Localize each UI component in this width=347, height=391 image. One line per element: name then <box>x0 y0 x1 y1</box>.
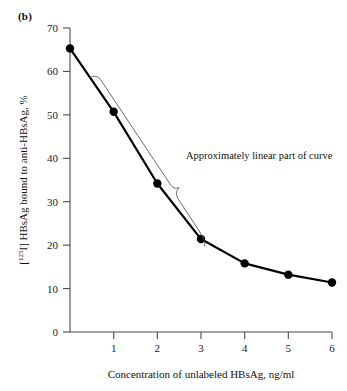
y-tick-label-60: 60 <box>47 65 59 77</box>
x-tick-label-6: 6 <box>329 342 335 354</box>
y-tick-label-20: 20 <box>47 239 59 251</box>
y-axis-ticks <box>63 28 70 332</box>
y-axis-title-superscript: 125 <box>17 250 25 261</box>
y-axis-title: [125I] HBsAg bound to anti-HBsAg, % <box>17 95 29 264</box>
figure-panel-b: (b) 0 10 20 30 40 50 60 70 <box>0 0 347 391</box>
data-point <box>328 278 336 286</box>
data-series-line <box>70 48 332 282</box>
y-tick-label-0: 0 <box>53 326 59 338</box>
data-point <box>109 108 117 116</box>
y-tick-label-40: 40 <box>47 152 59 164</box>
x-axis-title: Concentration of unlabeled HBsAg, ng/ml <box>108 368 295 380</box>
x-tick-label-4: 4 <box>242 342 248 354</box>
y-axis-tick-labels: 0 10 20 30 40 50 60 70 <box>47 22 59 338</box>
data-point <box>284 270 292 278</box>
data-series-markers <box>66 44 336 286</box>
y-tick-label-50: 50 <box>47 109 59 121</box>
linear-region-annotation: Approximately linear part of curve <box>186 150 333 161</box>
x-tick-label-5: 5 <box>286 342 292 354</box>
x-tick-label-2: 2 <box>155 342 161 354</box>
x-axis-tick-labels: 1 2 3 4 5 6 <box>111 342 335 354</box>
data-point <box>66 44 74 52</box>
data-point <box>240 259 248 267</box>
x-tick-label-1: 1 <box>111 342 117 354</box>
y-tick-label-70: 70 <box>47 22 59 34</box>
chart-canvas: 0 10 20 30 40 50 60 70 1 2 3 4 5 6 <box>0 0 347 391</box>
x-axis-ticks <box>114 332 332 339</box>
y-tick-label-30: 30 <box>47 196 59 208</box>
x-tick-label-3: 3 <box>198 342 204 354</box>
y-axis-title-suffix: I] HBsAg bound to anti-HBsAg, % <box>17 95 29 250</box>
data-point <box>153 179 161 187</box>
y-tick-label-10: 10 <box>47 283 59 295</box>
